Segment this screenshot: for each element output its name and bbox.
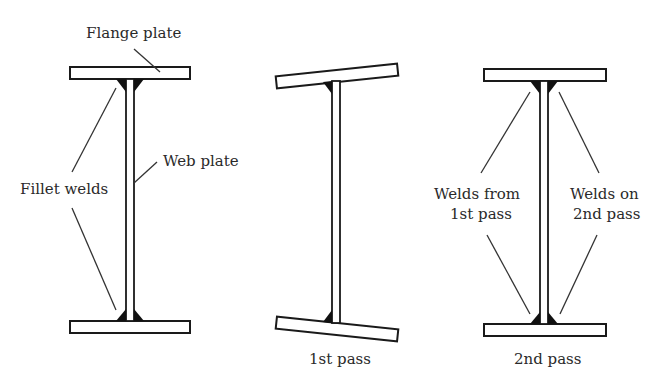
welds-on-second-pass-label-line2: 2nd pass	[573, 205, 641, 223]
fillet-weld-top-right	[134, 79, 144, 92]
web-plate	[126, 79, 134, 321]
weld-second-pass-top	[548, 81, 558, 94]
panel-second-pass: Welds from 1st pass Welds on 2nd pass 2n…	[434, 69, 641, 368]
first-pass-weld-bottom	[323, 310, 332, 323]
weld-first-pass-bottom	[530, 312, 540, 324]
welds-first-leader-bottom	[487, 235, 530, 314]
welds-second-leader-bottom	[560, 235, 597, 314]
fillet-weld-top-left	[116, 79, 126, 92]
fillet-weld-bottom-right	[134, 309, 144, 321]
panel-assembly: Flange plate Fillet welds Web plate	[20, 24, 239, 333]
welds-on-second-pass-label: Welds on	[570, 185, 639, 203]
web-plate-final	[540, 81, 548, 324]
web-plate-label: Web plate	[163, 152, 239, 170]
fillet-leader-top	[72, 88, 116, 172]
first-pass-weld-top	[323, 81, 332, 94]
web-plate-first-pass	[332, 81, 340, 323]
web-leader-line	[134, 162, 157, 183]
panel-first-pass: 1st pass	[276, 64, 399, 368]
second-pass-caption: 2nd pass	[514, 350, 582, 368]
welds-from-first-pass-label: Welds from	[434, 185, 520, 203]
top-flange-plate	[70, 67, 190, 79]
weld-first-pass-top	[530, 81, 540, 94]
fillet-welds-label: Fillet welds	[20, 180, 108, 198]
flange-plate-label: Flange plate	[86, 24, 181, 42]
fillet-weld-bottom-left	[116, 309, 126, 321]
welds-from-first-pass-label-line2: 1st pass	[450, 205, 512, 223]
fillet-leader-bottom	[72, 208, 116, 310]
weld-second-pass-bottom	[548, 312, 558, 324]
welds-first-leader-top	[481, 92, 530, 173]
top-flange-plate-final	[484, 69, 606, 81]
welding-sequence-diagram: Flange plate Fillet welds Web plate 1st …	[0, 0, 668, 387]
first-pass-caption: 1st pass	[309, 350, 371, 368]
bottom-flange-plate	[70, 321, 190, 333]
welds-second-leader-top	[559, 92, 599, 173]
bottom-flange-plate-final	[484, 324, 606, 336]
